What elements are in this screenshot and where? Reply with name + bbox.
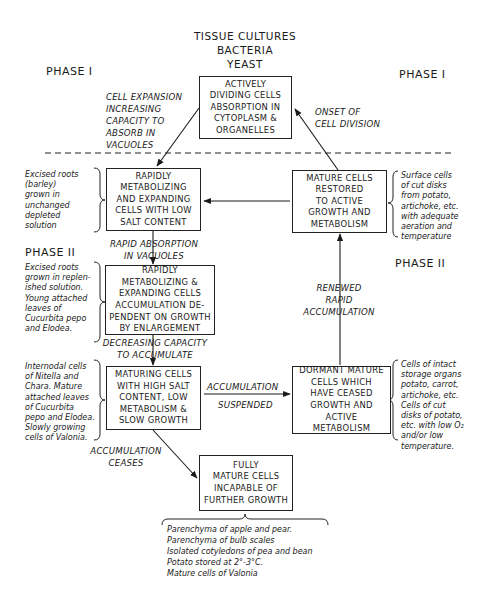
bottom-list-item: Isolated cotyledons of pea and bean [167, 546, 313, 557]
note-surface-cells: Surface cells of cut disks from potato, … [401, 171, 459, 242]
brace-left-3 [94, 360, 105, 440]
phase-label-left-mid: PHASE II [25, 246, 75, 259]
brace-left-2 [94, 262, 105, 342]
brace-left-1 [94, 168, 105, 232]
box-dormant: DORMANT MATURE CELLS WHICH HAVE CEASED G… [292, 366, 391, 434]
box-fully-mature: FULLY MATURE CELLS INCAPABLE OF FURTHER … [199, 455, 293, 511]
title-line-yeast: YEAST [180, 57, 310, 71]
label-suspended: SUSPENDED [218, 399, 273, 411]
note-internodal: Internodal cells of Nitella and Chara. M… [25, 362, 95, 444]
note-excised-barley: Excised roots (barley) grown in unchange… [25, 170, 79, 231]
box-rapidly-accumulation: RAPIDLY METABOLIZING & EXPANDING CELLS A… [105, 265, 215, 335]
label-decreasing-capacity: DECREASING CAPACITY TO ACCUMULATE [98, 337, 212, 361]
phase-label-right-mid: PHASE II [395, 257, 445, 270]
box-actively-dividing: ACTIVELY DIVIDING CELLS ABSORPTION IN CY… [199, 76, 292, 139]
label-accumulation-ceases: ACCUMULATION CEASES [86, 445, 166, 469]
note-intact-storage: Cells of intact storage organs potato, c… [401, 360, 464, 452]
title-line-tissue-cultures: TISSUE CULTURES [180, 29, 310, 43]
title-line-bacteria: BACTERIA [180, 43, 310, 57]
box-maturing: MATURING CELLS WITH HIGH SALT CONTENT, L… [106, 366, 201, 430]
label-renewed-accumulation: RENEWED RAPID ACCUMULATION [300, 282, 378, 318]
label-cell-expansion: CELL EXPANSION INCREASING CAPACITY TO AB… [106, 91, 182, 151]
note-excised-replenished: Excised roots grown in replen- ished sol… [25, 263, 91, 334]
box-rapidly-low-salt: RAPIDLY METABOLIZING AND EXPANDING CELLS… [106, 168, 201, 231]
label-rapid-absorption: RAPID ABSORPTION IN VACUOLES [106, 238, 202, 262]
phase-label-right-top: PHASE I [399, 68, 446, 81]
bottom-list-item: Parenchyma of apple and pear. [167, 524, 313, 535]
label-accumulation: ACCUMULATION [207, 381, 278, 393]
note-bottom-list: Parenchyma of apple and pear. Parenchyma… [167, 524, 313, 579]
bottom-list-item: Mature cells of Valonia [167, 568, 313, 579]
phase-label-left-top: PHASE I [46, 65, 93, 78]
organism-title: TISSUE CULTURES BACTERIA YEAST [180, 29, 310, 71]
brace-right-1 [388, 171, 398, 237]
bottom-list-item: Potato stored at 2°-3°C. [167, 557, 313, 568]
label-onset-division: ONSET OF CELL DIVISION [315, 106, 380, 130]
bottom-list-item: Parenchyma of bulb scales [167, 535, 313, 546]
box-mature-restored: MATURE CELLS RESTORED TO ACTIVE GROWTH A… [292, 170, 387, 233]
